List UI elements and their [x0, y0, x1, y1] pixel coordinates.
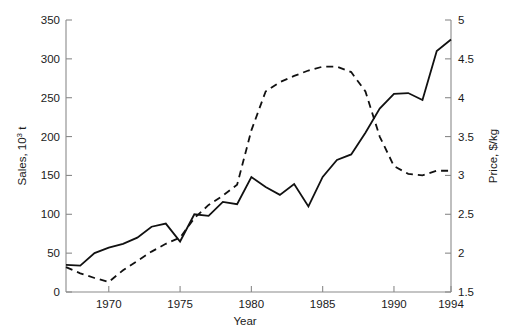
x-tick-label: 1980	[239, 298, 265, 310]
y2-tick-label: 4	[458, 92, 465, 104]
x-tick-label: 1970	[96, 298, 122, 310]
x-axis-title: Year	[233, 315, 256, 327]
x-tick-label: 1975	[167, 298, 193, 310]
y-tick-label: 150	[41, 169, 60, 181]
series-group	[66, 39, 451, 281]
axis-titles: Sales, 103 t Price, $/kg Year	[15, 126, 499, 327]
line-chart: 050100150200250300350 1.522.533.544.55 1…	[0, 0, 511, 332]
series-sales-line	[66, 39, 451, 265]
series-price-line	[66, 67, 451, 282]
y2-tick-label: 5	[458, 14, 464, 26]
y2-tick-label: 3	[458, 169, 464, 181]
y-tick-label: 200	[41, 131, 60, 143]
right-axis-ticks: 1.522.533.544.55	[445, 14, 474, 298]
left-axis-ticks: 050100150200250300350	[41, 14, 72, 298]
axes-group	[66, 20, 451, 292]
chart-page: 050100150200250300350 1.522.533.544.55 1…	[0, 0, 511, 332]
y2-axis-title: Price, $/kg	[487, 129, 499, 183]
y-tick-label: 0	[54, 286, 60, 298]
y-tick-label: 100	[41, 208, 60, 220]
y2-tick-label: 1.5	[458, 286, 474, 298]
y-tick-label: 250	[41, 92, 60, 104]
y2-tick-label: 2.5	[458, 208, 474, 220]
x-tick-label: 1985	[310, 298, 336, 310]
y2-tick-label: 2	[458, 247, 464, 259]
x-tick-label: 1994	[438, 298, 464, 310]
x-tick-label: 1990	[381, 298, 407, 310]
y-tick-label: 50	[47, 247, 60, 259]
y2-tick-label: 4.5	[458, 53, 474, 65]
y-tick-label: 300	[41, 53, 60, 65]
y2-tick-label: 3.5	[458, 131, 474, 143]
y-axis-title: Sales, 103 t	[15, 126, 28, 186]
y-tick-label: 350	[41, 14, 60, 26]
x-axis-ticks: 197019751980198519901994	[96, 286, 464, 310]
